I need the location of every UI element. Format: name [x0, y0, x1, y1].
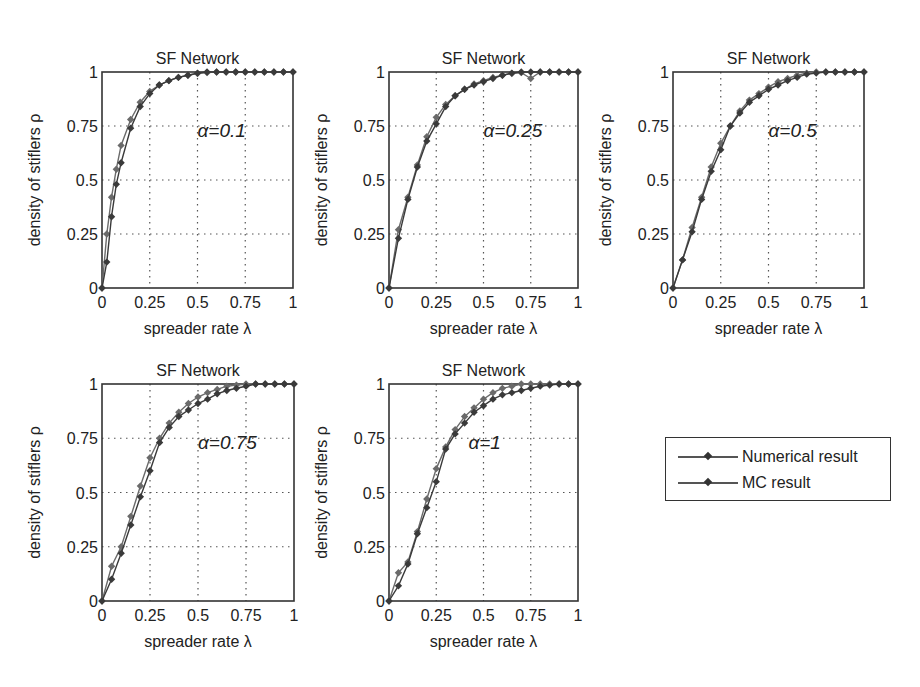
alpha-annotation: α=0.75: [198, 432, 257, 453]
y-tick-label: 1: [89, 376, 98, 393]
data-point-marker: [232, 68, 239, 75]
y-tick-label: 0.5: [647, 172, 669, 189]
data-point-marker: [574, 68, 581, 75]
x-tick-label: 0: [98, 607, 107, 624]
x-axis-label: spreader rate λ: [430, 320, 538, 337]
x-tick-label: 0.5: [757, 294, 779, 311]
x-tick-label: 0.25: [421, 607, 452, 624]
data-point-marker: [385, 284, 392, 291]
x-tick-label: 0.5: [187, 607, 209, 624]
panel-title: SF Network: [442, 50, 527, 67]
x-tick-label: 1: [860, 294, 869, 311]
data-point-marker: [194, 393, 201, 400]
legend-label: MC result: [742, 474, 810, 492]
x-tick-label: 0: [385, 607, 394, 624]
data-point-marker: [98, 597, 105, 604]
data-point-marker: [280, 68, 287, 75]
x-tick-label: 0.5: [186, 294, 208, 311]
alpha-annotation: α=0.5: [769, 120, 818, 141]
x-tick-label: 0.25: [134, 294, 165, 311]
x-tick-label: 1: [574, 607, 583, 624]
x-axis-label: spreader rate λ: [144, 633, 252, 650]
data-point-marker: [508, 389, 515, 396]
data-point-marker: [679, 256, 686, 263]
y-tick-label: 0: [376, 280, 385, 297]
y-tick-label: 0.5: [363, 172, 385, 189]
alpha-annotation: α=0.25: [484, 120, 543, 141]
data-point-marker: [242, 68, 249, 75]
x-tick-label: 0.5: [472, 607, 494, 624]
y-tick-label: 1: [376, 376, 385, 393]
y-tick-label: 0: [376, 593, 385, 610]
data-point-marker: [527, 385, 534, 392]
y-tick-label: 0: [89, 280, 98, 297]
data-point-marker: [271, 380, 278, 387]
panel-title: SF Network: [442, 362, 527, 379]
x-tick-label: 0.75: [515, 294, 546, 311]
y-tick-label: 0: [89, 593, 98, 610]
data-point-marker: [165, 77, 172, 84]
y-tick-label: 0.25: [67, 539, 98, 556]
x-tick-label: 0.75: [801, 294, 832, 311]
y-tick-label: 0.5: [76, 485, 98, 502]
y-axis-label: density of stiflers ρ: [26, 426, 43, 559]
data-point-marker: [822, 68, 829, 75]
data-point-marker: [108, 563, 115, 570]
data-point-marker: [252, 380, 259, 387]
data-point-marker: [555, 380, 562, 387]
data-point-marker: [717, 146, 724, 153]
y-tick-label: 0.25: [67, 226, 98, 243]
data-point-marker: [832, 68, 839, 75]
data-point-marker: [518, 380, 525, 387]
data-point-marker: [251, 68, 258, 75]
data-point-marker: [813, 69, 820, 76]
panel-title: SF Network: [156, 50, 241, 67]
data-point-marker: [527, 68, 534, 75]
y-axis-label: density of stiflers ρ: [26, 114, 43, 247]
y-tick-label: 0.25: [638, 226, 669, 243]
y-axis-label: density of stiflers ρ: [313, 426, 330, 559]
data-point-marker: [262, 380, 269, 387]
x-tick-label: 1: [290, 607, 299, 624]
x-tick-label: 0.25: [421, 294, 452, 311]
y-tick-label: 0.75: [354, 430, 385, 447]
data-point-marker: [290, 380, 297, 387]
y-tick-label: 0.5: [76, 172, 98, 189]
y-tick-label: 0.75: [67, 118, 98, 135]
data-point-marker: [565, 380, 572, 387]
y-tick-label: 0.25: [354, 539, 385, 556]
y-tick-label: 0: [660, 280, 669, 297]
data-point-marker: [117, 142, 124, 149]
data-point-marker: [499, 385, 506, 392]
x-tick-label: 0.25: [705, 294, 736, 311]
data-point-marker: [194, 400, 201, 407]
x-tick-label: 1: [289, 294, 298, 311]
y-tick-label: 1: [89, 64, 98, 81]
data-point-marker: [175, 74, 182, 81]
data-point-marker: [203, 68, 210, 75]
x-tick-label: 1: [574, 294, 583, 311]
data-point-marker: [851, 68, 858, 75]
figure: 000.250.250.50.50.750.7511SF Networkspre…: [0, 0, 920, 687]
data-point-marker: [489, 75, 496, 82]
x-tick-label: 0.5: [472, 294, 494, 311]
x-tick-label: 0.75: [230, 294, 261, 311]
x-axis-label: spreader rate λ: [144, 320, 252, 337]
y-axis-label: density of stiflers ρ: [313, 114, 330, 247]
x-tick-label: 0: [669, 294, 678, 311]
chart-panel: 000.250.250.50.50.750.7511SF Networkspre…: [597, 50, 869, 337]
data-point-marker: [499, 391, 506, 398]
x-axis-label: spreader rate λ: [715, 320, 823, 337]
legend-item-numerical: Numerical result: [666, 445, 890, 469]
y-tick-label: 1: [376, 64, 385, 81]
data-point-marker: [146, 467, 153, 474]
x-tick-label: 0: [385, 294, 394, 311]
mc-line-marker-icon: [678, 471, 738, 495]
chart-panel: 000.250.250.50.50.750.7511SF Networkspre…: [26, 362, 299, 650]
data-point-marker: [270, 68, 277, 75]
chart-panel: 000.250.250.50.50.750.7511SF Networkspre…: [26, 50, 298, 337]
data-point-marker: [156, 439, 163, 446]
numerical-line-marker-icon: [678, 445, 738, 469]
y-tick-label: 0.75: [67, 430, 98, 447]
data-point-marker: [555, 68, 562, 75]
